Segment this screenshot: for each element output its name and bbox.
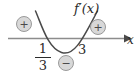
x-axis bbox=[8, 35, 132, 43]
sign-badge-negative: − bbox=[58, 55, 74, 71]
x-axis-label: x bbox=[127, 33, 134, 47]
root-label-three: 3 bbox=[78, 42, 86, 57]
sign-badge-positive-right: + bbox=[90, 19, 106, 35]
function-label: f′(x) bbox=[74, 1, 99, 16]
sign-badge-positive-left: + bbox=[16, 16, 32, 32]
sign-chart-figure: f′(x) x 1 3 3 + − + bbox=[0, 0, 139, 77]
root-label-one-third: 1 3 bbox=[35, 42, 51, 72]
fraction-numerator: 1 bbox=[35, 42, 51, 56]
fraction-denominator: 3 bbox=[35, 59, 51, 73]
